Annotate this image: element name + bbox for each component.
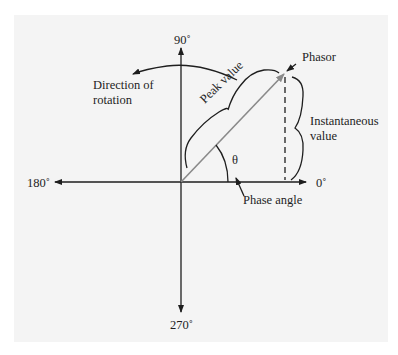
label-instantaneous-line2: value	[310, 129, 337, 143]
label-180-degrees: 180˚	[27, 176, 50, 190]
label-instantaneous-line1: Instantaneous	[310, 114, 379, 128]
label-270-degrees: 270˚	[170, 318, 193, 332]
label-0-degrees: 0˚	[316, 176, 326, 190]
phasor-pointer	[287, 64, 296, 71]
instantaneous-brace	[291, 77, 303, 180]
label-direction-line1: Direction of	[93, 78, 154, 92]
label-90-degrees: 90˚	[174, 33, 191, 47]
label-phasor: Phasor	[302, 50, 336, 64]
label-direction-line2: rotation	[93, 93, 132, 107]
label-phase-angle: Phase angle	[243, 193, 302, 207]
phasor-diagram	[0, 0, 398, 355]
label-theta: θ	[232, 153, 238, 167]
theta-arc	[216, 145, 228, 182]
